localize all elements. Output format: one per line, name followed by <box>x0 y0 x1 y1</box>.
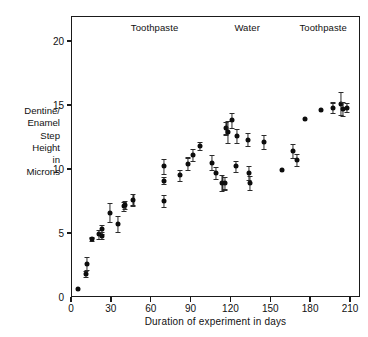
data-point <box>177 173 182 178</box>
y-axis-tick <box>67 40 72 41</box>
error-bar-cap <box>162 184 167 185</box>
error-bar-cap <box>83 277 88 278</box>
x-axis-tick-label: 90 <box>185 303 196 314</box>
data-point <box>318 108 323 113</box>
error-bar-cap <box>213 179 218 180</box>
error-bar-cap <box>177 170 182 171</box>
x-axis-tick <box>70 297 71 302</box>
data-point <box>302 117 307 122</box>
error-bar-cap <box>107 203 112 204</box>
x-axis-tick <box>270 297 271 302</box>
error-bar-cap <box>247 166 252 167</box>
error-bar-cap <box>235 143 240 144</box>
error-bar-cap <box>209 155 214 156</box>
error-bar-cap <box>330 102 335 103</box>
data-point <box>83 271 88 276</box>
data-point <box>185 161 190 166</box>
x-axis-tick <box>309 297 310 302</box>
y-axis-tick-label: 10 <box>53 164 64 175</box>
chart-figure: Dentine/EnamelStepHeightinMicrons Durati… <box>0 0 368 337</box>
x-axis-tick <box>150 297 151 302</box>
error-bar-cap <box>248 176 253 177</box>
y-axis-tick-label: 15 <box>53 100 64 111</box>
error-bar-cap <box>122 211 127 212</box>
error-bar-cap <box>245 146 250 147</box>
error-bar-cap <box>162 195 167 196</box>
error-bar-cap <box>99 239 104 240</box>
error-bar-cap <box>115 216 120 217</box>
x-axis-tick-label: 120 <box>222 303 239 314</box>
x-axis-tick-label: 150 <box>262 303 279 314</box>
x-axis-tick <box>349 297 350 302</box>
data-point <box>213 170 218 175</box>
data-point <box>290 149 295 154</box>
data-point <box>191 152 196 157</box>
error-bar-cap <box>131 205 136 206</box>
y-axis-tick-label: 0 <box>58 292 64 303</box>
error-bar-cap <box>162 159 167 160</box>
data-point <box>162 199 167 204</box>
data-point <box>84 261 89 266</box>
error-bar-cap <box>330 113 335 114</box>
error-bar-cap <box>341 116 346 117</box>
error-bar-cap <box>294 166 299 167</box>
error-bar-cap <box>294 154 299 155</box>
data-point <box>229 118 234 123</box>
data-point <box>223 181 228 186</box>
data-point <box>75 287 80 292</box>
x-axis-tick-label: 60 <box>145 303 156 314</box>
error-bar-cap <box>338 92 343 93</box>
error-bar-cap <box>261 135 266 136</box>
x-axis-tick-label: 210 <box>342 303 359 314</box>
error-bar-cap <box>107 222 112 223</box>
data-point <box>197 143 202 148</box>
y-axis-label-line: Step <box>0 130 60 142</box>
y-axis-tick <box>67 168 72 169</box>
error-bar-cap <box>345 112 350 113</box>
error-bar-cap <box>225 143 230 144</box>
data-point <box>235 133 240 138</box>
y-axis-tick-label: 5 <box>58 228 64 239</box>
error-bar-cap <box>220 191 225 192</box>
x-axis-tick <box>230 297 231 302</box>
plot-area <box>71 16 360 297</box>
y-axis-label: Dentine/EnamelStepHeightinMicrons <box>0 105 60 179</box>
x-axis-tick <box>110 297 111 302</box>
data-point <box>131 197 136 202</box>
error-bar-cap <box>233 172 238 173</box>
y-axis-tick-label: 20 <box>53 36 64 47</box>
data-point <box>261 140 266 145</box>
y-axis-label-line: Enamel <box>0 117 60 129</box>
error-bar-cap <box>245 133 250 134</box>
x-axis-tick-label: 30 <box>105 303 116 314</box>
error-bar-cap <box>115 232 120 233</box>
data-point <box>280 168 285 173</box>
y-axis-label-line: Dentine/ <box>0 105 60 117</box>
error-bar-cap <box>162 207 167 208</box>
error-bar-cap <box>197 150 202 151</box>
data-point <box>162 178 167 183</box>
data-point <box>123 202 128 207</box>
y-axis-label-line: in <box>0 154 60 166</box>
y-axis-tick <box>67 104 72 105</box>
data-point <box>245 137 250 142</box>
error-bar-cap <box>290 144 295 145</box>
error-bar-cap <box>84 257 89 258</box>
x-axis-tick-label: 0 <box>68 303 74 314</box>
error-bar-cap <box>99 225 104 226</box>
data-point <box>233 164 238 169</box>
error-bar-cap <box>185 157 190 158</box>
error-bar-cap <box>229 128 234 129</box>
data-point <box>107 210 112 215</box>
phase-annotation-toothpaste-2: Toothpaste <box>300 22 347 33</box>
error-bar-cap <box>223 177 228 178</box>
x-axis-tick <box>190 297 191 302</box>
error-bar-cap <box>123 209 128 210</box>
data-point <box>90 237 95 242</box>
data-point <box>115 222 120 227</box>
error-bar-cap <box>233 161 238 162</box>
x-axis-label: Duration of experiment in days <box>71 316 360 327</box>
error-bar-cap <box>345 103 350 104</box>
error-bar-cap <box>223 189 228 190</box>
error-bar-cap <box>229 113 234 114</box>
